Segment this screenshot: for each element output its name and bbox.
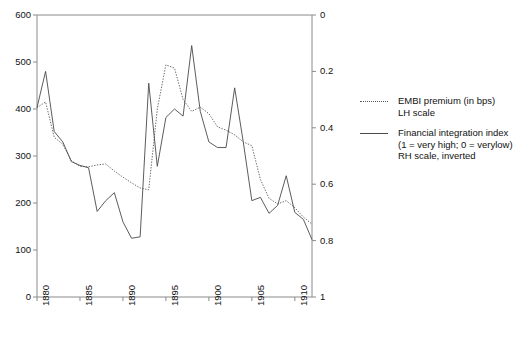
x-axis-tick-label: 1895	[170, 285, 180, 306]
x-axis-tick-label: 1885	[84, 285, 94, 306]
chart-legend: EMBI premium (in bps) LH scale Financial…	[360, 95, 512, 171]
axis-tick-label: 500	[0, 57, 31, 67]
right-axis-ticks	[312, 15, 316, 297]
axis-tick-label: 100	[0, 245, 31, 255]
legend-label-embi-premium: EMBI premium (in bps) LH scale	[398, 95, 512, 118]
x-axis-tick-label: 1880	[41, 285, 51, 306]
legend-item-financial-integration: Financial integration index (1 = very hi…	[360, 127, 512, 162]
axis-tick-label: 400	[0, 104, 31, 114]
axis-tick-label: 0	[0, 292, 31, 302]
axis-tick-label: 600	[0, 10, 31, 20]
legend-label-financial-integration: Financial integration index (1 = very hi…	[398, 127, 512, 162]
axis-tick-label: 0	[320, 10, 325, 20]
axis-tick-label: 0.2	[320, 66, 333, 76]
legend-label-fii-line-1: Financial integration index	[398, 127, 512, 139]
axis-tick-label: 200	[0, 198, 31, 208]
left-axis-ticks	[33, 15, 37, 297]
chart-figure: 0100200300400500600 00.20.40.60.81 18801…	[0, 0, 515, 355]
legend-label-embi-line-2: LH scale	[398, 107, 512, 119]
legend-item-embi-premium: EMBI premium (in bps) LH scale	[360, 95, 512, 118]
x-axis-tick-label: 1910	[299, 285, 309, 306]
legend-key-solid-line-icon	[360, 133, 388, 135]
axis-tick-label: 0.8	[320, 236, 333, 246]
legend-label-fii-line-3: RH scale, inverted	[398, 150, 512, 162]
axis-tick-label: 0.4	[320, 123, 333, 133]
axis-tick-label: 300	[0, 151, 31, 161]
axes-group	[37, 15, 312, 297]
legend-label-fii-line-2: (1 = very high; 0 = verylow)	[398, 139, 512, 151]
x-axis-tick-label: 1905	[256, 285, 266, 306]
series-line-embi-premium	[37, 65, 312, 224]
x-axis-tick-label: 1890	[127, 285, 137, 306]
x-axis-tick-label: 1900	[213, 285, 223, 306]
legend-key-dotted-line-icon	[360, 101, 388, 103]
series-line-financial-integration	[37, 46, 312, 240]
legend-label-embi-line-1: EMBI premium (in bps)	[398, 95, 512, 107]
axis-tick-label: 1	[320, 292, 325, 302]
axis-tick-label: 0.6	[320, 179, 333, 189]
